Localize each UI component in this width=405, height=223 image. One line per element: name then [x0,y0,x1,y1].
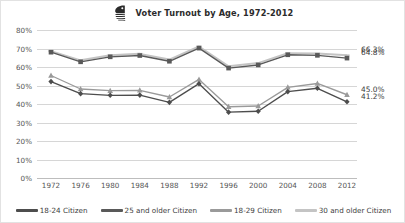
data-point-marker [48,79,53,85]
data-point-marker [345,56,350,61]
data-point-marker [48,73,54,78]
chart-title: Voter Turnout by Age, 1972-2012 [136,8,294,18]
x-tick-label: 2008 [308,181,326,190]
legend-item-18-29-citizen[interactable]: 18-29 Citizen [210,206,282,215]
legend-item-30-and-older-citizen[interactable]: 30 and older Citizen [295,206,391,215]
x-tick-label: 1988 [160,181,178,190]
data-point-marker [108,55,113,60]
legend-label: 30 and older Citizen [319,206,391,215]
data-point-marker [196,76,202,81]
data-point-marker [137,92,142,98]
data-point-marker [78,91,83,97]
chart-legend: 18-24 Citizen25 and older Citizen18-29 C… [1,203,405,217]
y-tick-label: 0% [21,174,32,183]
legend-item-18-24-citizen[interactable]: 18-24 Citizen [16,206,88,215]
series-lines [37,30,357,179]
x-tick-label: 2012 [338,181,356,190]
data-point-marker [49,50,54,55]
legend-item-25-and-older-citizen[interactable]: 25 and older Citizen [101,206,197,215]
series-end-labels: 66.3%64.8%45.0%41.2% [357,30,405,179]
data-point-marker [78,60,83,65]
data-point-marker [315,53,320,58]
legend-swatch-icon [210,209,232,212]
data-point-marker [138,53,143,58]
y-tick-label: 20% [16,137,32,146]
data-point-marker [286,52,291,57]
census-bureau-logo-icon [114,5,129,21]
x-tick-label: 1984 [131,181,149,190]
x-tick-label: 1976 [71,181,89,190]
data-point-marker [167,100,172,106]
y-axis: 80%70%60%50%40%30%20%10%0% [1,30,35,179]
series-18-29-citizen [48,73,350,109]
legend-swatch-icon [101,209,123,212]
x-tick-label: 2004 [279,181,297,190]
chart-header: Voter Turnout by Age, 1972-2012 [1,4,405,22]
y-tick-label: 70% [16,44,32,53]
plot-area [37,30,357,179]
x-tick-label: 1972 [42,181,60,190]
y-tick-label: 30% [16,118,32,127]
data-point-marker [197,46,202,51]
x-tick-label: 1980 [101,181,119,190]
x-tick-label: 1996 [219,181,237,190]
data-point-marker [315,85,320,91]
data-point-marker [256,63,261,68]
legend-swatch-icon [295,209,317,212]
x-axis: 1972197619801984198819921996200020042008… [37,181,357,195]
y-tick-label: 50% [16,81,32,90]
data-point-marker [344,99,349,105]
data-point-marker [108,93,113,99]
legend-label: 18-24 Citizen [40,206,88,215]
x-tick-label: 1992 [190,181,208,190]
legend-label: 18-29 Citizen [234,206,282,215]
data-point-marker [226,66,231,71]
legend-swatch-icon [16,209,38,212]
y-tick-label: 40% [16,100,32,109]
x-tick-label: 2000 [249,181,267,190]
voter-turnout-chart: Voter Turnout by Age, 1972-2012 80%70%60… [0,0,405,223]
legend-label: 25 and older Citizen [125,206,197,215]
series-end-label: 64.8% [361,48,384,57]
y-tick-label: 60% [16,63,32,72]
series-end-label: 41.2% [361,91,384,100]
series-18-24-citizen [48,79,349,115]
data-point-marker [167,59,172,64]
y-tick-label: 80% [16,26,32,35]
y-tick-label: 10% [16,155,32,164]
